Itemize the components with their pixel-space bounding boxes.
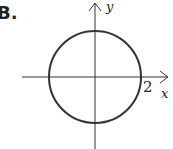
y-axis-label: y [106,0,113,14]
x-axis-label: x [161,86,168,101]
figure-label: B. [0,2,18,23]
x-tick-label: 2 [143,78,153,96]
coordinate-plot [0,0,173,149]
